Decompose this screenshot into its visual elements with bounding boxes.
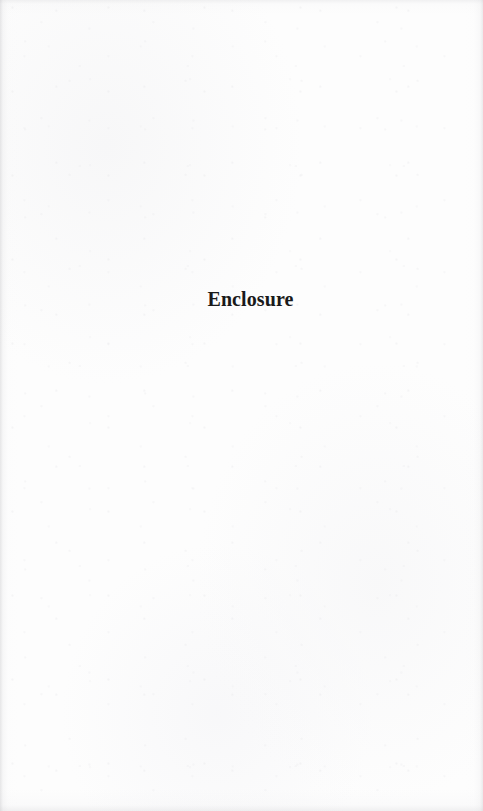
- scanned-page: Enclosure: [0, 0, 483, 811]
- page-heading-block: Enclosure: [0, 288, 483, 310]
- paper-texture-overlay: [0, 0, 483, 811]
- page-title: Enclosure: [207, 288, 293, 310]
